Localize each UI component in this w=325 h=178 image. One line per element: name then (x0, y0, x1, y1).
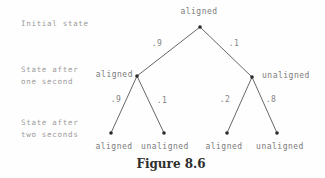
figure-caption: Figure 8.6 (136, 157, 205, 171)
node-dot-leaf-3 (225, 131, 229, 135)
node-dot-root (198, 25, 202, 29)
edge-unaligned-aligned (227, 77, 252, 133)
node-label-leaf-2: unaligned (141, 142, 189, 151)
prob-root-left: .9 (152, 39, 162, 48)
edge-root-aligned (137, 27, 200, 76)
edge-unaligned-unaligned (252, 77, 277, 133)
node-label-root: aligned (180, 7, 217, 16)
prob-left-left: .9 (111, 95, 121, 104)
row-label-line: State after (21, 64, 78, 76)
row-label-line: one second (21, 76, 78, 88)
node-label-mid-left: aligned (96, 70, 133, 79)
node-label-mid-right: unaligned (262, 71, 310, 80)
edge-root-unaligned (200, 27, 252, 77)
node-dot-leaf-4 (275, 131, 279, 135)
prob-right-left: .2 (220, 95, 230, 104)
tree-edges (111, 27, 277, 133)
row-label-line: two seconds (21, 129, 78, 141)
node-label-leaf-3: aligned (205, 142, 242, 151)
row-label-initial-state: Initial state (21, 18, 89, 30)
edge-aligned-aligned (111, 76, 137, 133)
prob-left-right: .1 (157, 96, 167, 105)
node-dot-leaf-1 (109, 131, 113, 135)
row-label-after-two-seconds: State after two seconds (21, 117, 78, 141)
row-label-line: State after (21, 117, 78, 129)
node-dot-mid-right (250, 75, 254, 79)
node-label-leaf-4: unaligned (256, 142, 304, 151)
prob-root-right: .1 (229, 39, 239, 48)
row-label-line: Initial state (21, 18, 89, 30)
node-dot-leaf-2 (162, 131, 166, 135)
node-label-leaf-1: aligned (95, 142, 132, 151)
prob-right-right: .8 (266, 95, 276, 104)
node-dot-mid-left (135, 74, 139, 78)
row-label-after-one-second: State after one second (21, 64, 78, 88)
figure-8-6: Initial state State after one second Sta… (0, 0, 325, 178)
